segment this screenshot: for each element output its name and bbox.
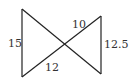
diagonal-top-left-to-bottom-right	[22, 9, 101, 74]
label-lower-left-segment: 12	[45, 61, 59, 74]
label-left-side: 15	[8, 37, 22, 50]
label-upper-right-segment: 10	[72, 18, 86, 31]
label-right-side: 12.5	[104, 38, 129, 51]
bowtie-diagram: 15 12.5 10 12	[0, 0, 133, 78]
diagonal-bottom-left-to-top-right	[22, 16, 101, 77]
